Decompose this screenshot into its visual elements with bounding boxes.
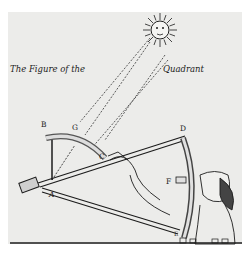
vane-f xyxy=(176,177,186,183)
point-label-f: F xyxy=(166,177,171,186)
point-label-b: B xyxy=(41,120,47,129)
point-label-c: C xyxy=(99,152,105,161)
sight-vane xyxy=(19,177,39,193)
point-label-e: E xyxy=(174,230,178,237)
point-label-g: G xyxy=(72,123,78,132)
caption-quadrant: Quadrant xyxy=(163,64,204,74)
quadrant-illustration xyxy=(0,0,251,255)
observer-figure xyxy=(195,172,235,245)
radius-arm xyxy=(38,136,186,234)
point-label-a: A xyxy=(49,190,54,199)
caption-title: The Figure of the xyxy=(10,64,85,74)
point-label-d: D xyxy=(180,124,186,133)
observer-arm xyxy=(108,152,170,215)
large-arc xyxy=(183,138,192,238)
sight-beams xyxy=(80,38,168,150)
sun-icon xyxy=(143,13,177,47)
base-blocks xyxy=(180,238,228,243)
